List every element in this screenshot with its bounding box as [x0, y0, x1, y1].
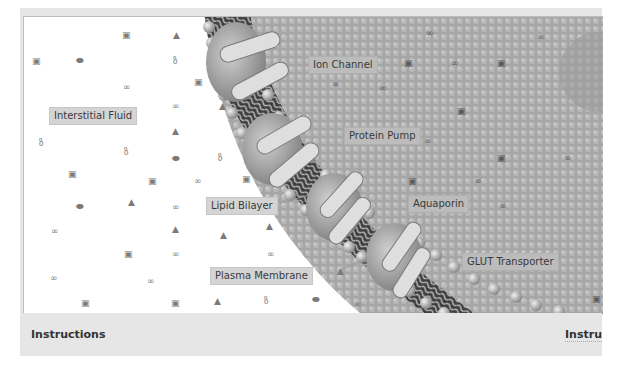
- label-plasma-membrane[interactable]: Plasma Membrane: [210, 267, 313, 285]
- instructions-heading: Instructions: [31, 328, 105, 341]
- molecule-branch-icon: ზ: [124, 148, 129, 157]
- label-interstitial-fluid[interactable]: Interstitial Fluid: [49, 107, 137, 125]
- molecule-pill-icon: ⬬: [76, 203, 84, 212]
- molecule-pair-icon: ∞: [332, 80, 340, 89]
- molecule-pair-icon: ∞: [451, 59, 459, 68]
- molecule-pair-icon: ∞: [267, 250, 275, 259]
- molecule-square-icon: ▣: [497, 59, 506, 68]
- molecule-triangle-icon: ▲: [214, 297, 221, 306]
- molecule-pair-icon: ∞: [379, 84, 387, 93]
- molecule-triangle-icon: ▲: [128, 198, 135, 207]
- molecule-pill-icon: ⬬: [172, 155, 180, 164]
- label-protein-pump[interactable]: Protein Pump: [344, 127, 421, 145]
- molecule-square-icon: ▣: [148, 177, 157, 186]
- molecule-branch-icon: ზ: [218, 154, 223, 163]
- molecule-square-icon: ▣: [68, 170, 77, 179]
- molecule-square-icon: ▣: [404, 59, 413, 68]
- cell-membrane-diagram[interactable]: Interstitial Fluid Ion Channel Protein P…: [23, 16, 603, 315]
- molecule-pair-icon: ∞: [499, 202, 507, 211]
- molecule-triangle-icon: ▲: [172, 225, 179, 234]
- instructions-bar: Instructions Instru: [23, 313, 602, 355]
- molecule-triangle-icon: ▲: [172, 127, 179, 136]
- molecule-square-icon: ▣: [194, 78, 203, 87]
- molecule-branch-icon: ზ: [39, 139, 44, 148]
- molecule-pair-icon: ∞: [50, 274, 58, 283]
- molecule-pill-icon: ⬬: [312, 296, 320, 305]
- molecule-square-icon: ▣: [124, 250, 133, 259]
- molecule-pair-icon: ∞: [426, 29, 434, 38]
- instructions-link[interactable]: Instru: [565, 328, 602, 342]
- label-aquaporin[interactable]: Aquaporin: [408, 195, 469, 213]
- molecule-square-icon: ▣: [32, 57, 41, 66]
- molecule-pair-icon: ∞: [172, 203, 180, 212]
- molecule-pair-icon: ∞: [123, 83, 131, 92]
- molecule-triangle-icon: ▲: [220, 231, 227, 240]
- molecule-triangle-icon: ▲: [173, 31, 180, 40]
- molecule-pair-icon: ∞: [147, 277, 155, 286]
- molecule-square-icon: ▣: [242, 175, 251, 184]
- molecule-triangle-icon: ▲: [266, 222, 273, 231]
- label-lipid-bilayer[interactable]: Lipid Bilayer: [206, 197, 278, 215]
- molecule-square-icon: ▣: [592, 295, 601, 304]
- molecule-square-icon: ▣: [122, 31, 131, 40]
- molecule-square-icon: ▣: [497, 154, 506, 163]
- molecule-square-icon: ▣: [408, 177, 417, 186]
- molecule-pair-icon: ∞: [51, 227, 59, 236]
- molecule-square-icon: ▣: [171, 299, 180, 308]
- label-ion-channel[interactable]: Ion Channel: [308, 56, 378, 74]
- molecule-square-icon: ▣: [457, 107, 466, 116]
- molecule-pair-icon: ∞: [424, 137, 432, 146]
- molecule-square-icon: ▣: [81, 299, 90, 308]
- molecule-pair-icon: ∞: [537, 33, 545, 42]
- molecule-pair-icon: ∞: [474, 177, 482, 186]
- molecule-pair-icon: ∞: [172, 250, 180, 259]
- molecule-triangle-icon: ▲: [219, 102, 226, 111]
- label-glut-transporter[interactable]: GLUT Transporter: [462, 253, 559, 271]
- molecule-branch-icon: ზ: [264, 297, 269, 306]
- molecule-pair-icon: ∞: [194, 177, 202, 186]
- molecule-pair-icon: ∞: [354, 300, 362, 309]
- molecule-branch-icon: ზ: [173, 57, 178, 66]
- molecule-pair-icon: ∞: [564, 154, 572, 163]
- molecule-pill-icon: ⬬: [76, 57, 84, 66]
- molecule-pair-icon: ∞: [172, 102, 180, 111]
- molecule-triangle-icon: ▲: [337, 267, 344, 276]
